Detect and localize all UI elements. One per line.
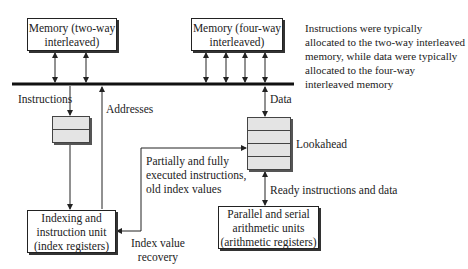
box-line: Indexing and bbox=[28, 211, 115, 225]
note-line: memory, while data were typically bbox=[305, 49, 465, 63]
partially-executed-label: Partially and fully executed instruction… bbox=[146, 154, 246, 196]
buffer-row bbox=[53, 130, 89, 142]
data-label: Data bbox=[270, 92, 292, 106]
index-recovery-label: Index value recovery bbox=[131, 236, 185, 264]
buffer-row bbox=[53, 117, 89, 130]
memory-two-way-line2: interleaved) bbox=[28, 35, 116, 49]
label-line: old index values bbox=[146, 182, 246, 196]
instructions-label: Instructions bbox=[18, 92, 72, 106]
memory-four-way-line2: interleaved) bbox=[192, 35, 282, 49]
lookahead-row bbox=[248, 131, 290, 144]
memory-four-way-line1: Memory (four-way bbox=[192, 21, 282, 35]
ready-label: Ready instructions and data bbox=[270, 183, 397, 197]
note-line: interleaved memory bbox=[305, 77, 465, 91]
lookahead-buffer bbox=[247, 117, 291, 170]
allocation-note: Instructions were typically allocated to… bbox=[305, 21, 465, 91]
label-line: Partially and fully bbox=[146, 154, 246, 168]
label-line: Index value bbox=[131, 236, 185, 250]
box-line: arithmetic units bbox=[219, 221, 318, 235]
box-line: (index registers) bbox=[28, 239, 115, 253]
note-line: allocated to the four-way bbox=[305, 63, 465, 77]
indexing-unit-box: Indexing and instruction unit (index reg… bbox=[27, 210, 116, 253]
label-line: executed instructions, bbox=[146, 168, 246, 182]
lookahead-row bbox=[248, 144, 290, 157]
arithmetic-units-box: Parallel and serial arithmetic units (ar… bbox=[218, 206, 319, 249]
lookahead-row bbox=[248, 157, 290, 169]
label-line: recovery bbox=[131, 250, 185, 264]
instruction-buffer bbox=[52, 116, 90, 143]
note-line: Instructions were typically bbox=[305, 21, 465, 35]
lookahead-row bbox=[248, 118, 290, 131]
memory-two-way-line1: Memory (two-way bbox=[28, 21, 116, 35]
box-line: instruction unit bbox=[28, 225, 115, 239]
lookahead-label: Lookahead bbox=[296, 137, 347, 151]
box-line: (arithmetic registers) bbox=[219, 235, 318, 249]
memory-two-way-box: Memory (two-way interleaved) bbox=[27, 18, 117, 51]
addresses-label: Addresses bbox=[106, 102, 153, 116]
box-line: Parallel and serial bbox=[219, 207, 318, 221]
note-line: allocated to the two-way interleaved bbox=[305, 35, 465, 49]
memory-four-way-box: Memory (four-way interleaved) bbox=[191, 18, 283, 51]
